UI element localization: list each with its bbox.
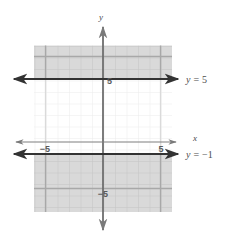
svg-text:y=−1: y=−1 bbox=[185, 149, 213, 160]
y-axis-name: y bbox=[98, 12, 103, 22]
label-upper-equals: = bbox=[193, 74, 199, 85]
tick-label-x-positive-5: 5 bbox=[158, 144, 163, 154]
coordinate-plane-figure: 5 −5 −5 5 y x y=5 y=−1 bbox=[0, 0, 239, 241]
x-axis-name: x bbox=[192, 133, 197, 143]
tick-label-text: 5 bbox=[158, 144, 163, 154]
graph-canvas: 5 −5 −5 5 y x y=5 y=−1 bbox=[0, 0, 239, 241]
y-axis-name-text: y bbox=[98, 12, 103, 22]
label-y-equals-negative-1: y=−1 bbox=[185, 149, 213, 160]
label-lower-variable: y bbox=[185, 149, 191, 160]
label-y-equals-5: y=5 bbox=[185, 74, 207, 85]
x-axis-name-text: x bbox=[192, 133, 197, 143]
label-upper-value: 5 bbox=[202, 74, 207, 85]
svg-text:y=5: y=5 bbox=[185, 74, 207, 85]
label-lower-equals: = bbox=[193, 149, 199, 160]
tick-label-text: −5 bbox=[98, 189, 108, 199]
label-lower-value: −1 bbox=[202, 149, 213, 160]
tick-label-text: −5 bbox=[40, 144, 50, 154]
tick-label-x-negative-5: −5 bbox=[40, 144, 50, 154]
tick-label-y-negative-5: −5 bbox=[98, 189, 108, 199]
tick-label-text: 5 bbox=[107, 76, 112, 86]
label-upper-variable: y bbox=[185, 74, 191, 85]
tick-label-y-positive-5: 5 bbox=[104, 71, 116, 86]
